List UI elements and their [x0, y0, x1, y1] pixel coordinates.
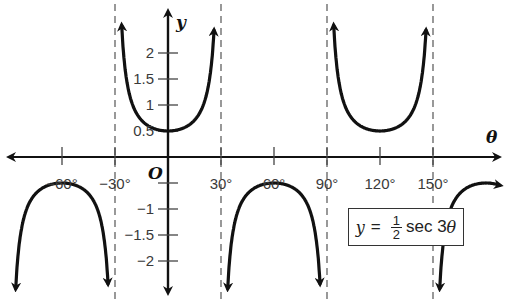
x-tick-label: −60° [46, 175, 77, 192]
curve-branch [228, 183, 274, 289]
y-tick-label: −2 [137, 252, 154, 269]
x-tick-label: −30° [99, 175, 130, 192]
curve-branch [62, 183, 108, 284]
secant-graph: −60°−30°30°60°90°120°150°21.510.5−1−1.5−… [0, 0, 506, 299]
equation-variable: θ [447, 218, 457, 237]
equation-fraction: 1 2 [391, 214, 402, 241]
y-tick-label: 1 [146, 96, 154, 113]
y-tick-label: −1.5 [124, 226, 154, 243]
y-tick-label: −1 [137, 200, 154, 217]
equation-label: y = 1 2 sec 3 θ [348, 208, 464, 246]
curve-branch [486, 183, 500, 185]
equation-lhs: y [356, 218, 365, 237]
x-tick-label: 150° [417, 175, 448, 192]
equation-function: sec 3 [406, 217, 447, 237]
x-tick-label: 120° [364, 175, 395, 192]
curve-branch [168, 30, 214, 131]
x-axis-label: θ [486, 127, 498, 147]
curve-branch [274, 183, 320, 284]
curve-branch [16, 183, 62, 289]
y-tick-label: 1.5 [133, 70, 154, 87]
x-tick-label: 90° [316, 175, 339, 192]
origin-label: O [148, 163, 163, 183]
y-tick-label: 0.5 [133, 122, 154, 139]
equation-equals: = [371, 217, 381, 237]
fraction-denominator: 2 [393, 228, 400, 241]
curve-branch [380, 30, 426, 131]
x-tick-label: 60° [263, 175, 286, 192]
y-axis-label: y [175, 12, 187, 32]
x-tick-label: 30° [210, 175, 233, 192]
fraction-numerator: 1 [391, 214, 402, 228]
y-tick-label: 2 [146, 44, 154, 61]
curve-branch [334, 26, 380, 132]
